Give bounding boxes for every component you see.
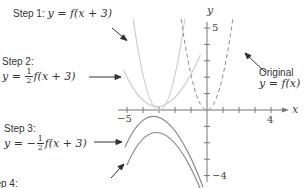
label-step1: Step 1: y = f(x + 3): [13, 8, 112, 19]
label-original: Original y = f(x): [259, 67, 300, 89]
frac-denominator: 2: [37, 144, 44, 152]
step3-eq-prefix: y = −: [4, 137, 36, 150]
curve-step2: [124, 55, 201, 107]
arrow-step3-head-icon: [116, 140, 122, 145]
x-tick-label-neg5: −5: [117, 113, 132, 124]
step1-equation: y = f(x + 3): [47, 7, 112, 20]
x-axis-label: x: [292, 103, 298, 116]
pointer-arrows: [89, 28, 265, 178]
step3-fraction: 12: [37, 135, 44, 152]
y-tick-label-neg4: −4: [212, 170, 227, 181]
curve-step4: [127, 132, 200, 188]
y-axis-label: y: [207, 4, 213, 17]
step2-eq-suffix: f(x + 3): [34, 70, 76, 83]
label-step2: Step 2: y = 12f(x + 3): [2, 56, 76, 85]
curve-step1: [133, 19, 185, 110]
step2-fraction: 12: [25, 68, 32, 85]
step3-eq-suffix: f(x + 3): [45, 137, 87, 150]
step3-title: Step 3:: [4, 123, 87, 134]
label-step4: Step 4:: [0, 178, 18, 188]
y-tick-label-5: 5: [212, 22, 218, 33]
step2-equation: y = 12f(x + 3): [2, 68, 76, 85]
arrow-step2-head-icon: [115, 75, 121, 80]
axes: [118, 22, 289, 182]
step4-title: Step 4:: [0, 178, 18, 188]
curve-step3: [125, 116, 203, 187]
step3-equation: y = −12f(x + 3): [4, 135, 87, 152]
original-equation: y = f(x): [259, 78, 300, 89]
x-tick-label-4: 4: [267, 114, 273, 125]
frac-denominator: 2: [25, 77, 32, 85]
step2-eq-prefix: y =: [2, 70, 24, 83]
step1-title: Step 1:: [13, 8, 45, 19]
label-step3: Step 3: y = −12f(x + 3): [4, 123, 87, 152]
step2-title: Step 2:: [2, 56, 76, 67]
graph-canvas: [0, 0, 306, 188]
x-axis-arrow-icon: [282, 108, 289, 113]
